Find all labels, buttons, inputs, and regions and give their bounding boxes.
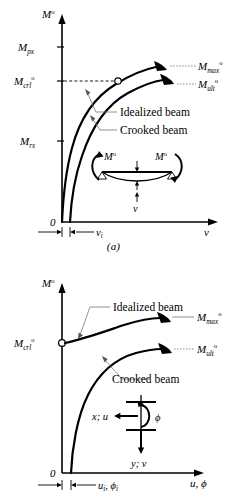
plot-a: Mo v 0 Mpx Mcrlo Mrx (0, 0, 227, 240)
curve-arrowhead-crooked-a (160, 74, 174, 85)
curve-idealized-beam-b (65, 318, 160, 343)
panel-caption-a: (a) (0, 240, 227, 252)
y-tick-mpx-a: Mpx (17, 41, 64, 56)
callout-crooked-text-a: Crooked beam (120, 124, 187, 136)
y-axis-b (58, 283, 65, 473)
callout-arrow-crooked-a (90, 115, 95, 121)
callout-crooked-text-b: Crooked beam (112, 373, 179, 385)
chart-panel-b: Mo u, ϕ 0 Mcrlo Mmaxo (0, 255, 227, 503)
curve-label-mult-text-a: Multo (197, 77, 219, 92)
inset-axes-diagram-b: x; u ϕ y; v (91, 395, 161, 469)
inset-support-left-a (98, 172, 107, 179)
curve-label-mult-text-b: Multo (196, 342, 218, 357)
curve-label-mult-b: Multo (174, 342, 218, 357)
curve-label-mmax-text-b: Mmaxo (196, 310, 222, 325)
y-tick-label-mrx: Mrx (19, 135, 36, 150)
curve-crooked-beam-a (70, 80, 163, 222)
origin-label-a: 0 (50, 216, 56, 228)
curve-label-mmax-a: Mmaxo (170, 59, 223, 74)
curve-label-mmax-text-a: Mmaxo (197, 59, 223, 74)
inset-beam-diagram-a: Mo Mo v (92, 150, 182, 214)
x-axis-title-b: u, ϕ (190, 477, 207, 489)
x-axis-b (62, 469, 204, 476)
x-axis-arrowhead-a (208, 218, 218, 225)
y-tick-mcrl-b: Mcrlo (13, 336, 65, 351)
x-dimension-label-vi: vi (96, 227, 103, 240)
y-axis-arrowhead-a (58, 14, 65, 24)
inset-axis-y-label-b: y; v (130, 458, 147, 469)
inset-moment-arrow-left-a (92, 154, 99, 180)
curve-arrowhead-crooked-b (158, 343, 172, 354)
curve-arrowhead-idealized-b (157, 312, 171, 323)
callout-idealized-text-b: Idealized beam (113, 301, 183, 313)
y-tick-label-mpx: Mpx (17, 41, 35, 56)
x-axis-title-a: v (204, 226, 209, 238)
inset-moment-arrow-right-a (175, 154, 182, 180)
figure-container: Mo v 0 Mpx Mcrlo Mrx (0, 0, 227, 503)
callout-arrow-idealized-a (85, 89, 90, 95)
y-tick-mcrl-a: Mcrlo (13, 74, 118, 89)
y-tick-label-mcrl: Mcrlo (13, 74, 35, 89)
x-dimension-vi-a: vi (38, 227, 103, 240)
callout-idealized-beam-a: Idealized beam (85, 89, 190, 118)
inset-rotation-arc-b (141, 405, 149, 427)
y-axis-title-b: Mo (41, 277, 55, 289)
y-axis-title-a: Mo (41, 8, 55, 20)
y-tick-mrx-a: Mrx (19, 135, 64, 150)
plot-b: Mo u, ϕ 0 Mcrlo Mmaxo (0, 255, 227, 503)
curve-label-mult-a: Multo (177, 77, 219, 92)
y-tick-label-mcrl-b: Mcrlo (13, 336, 35, 351)
curve-arrowhead-idealized-a (154, 61, 167, 71)
critical-point-marker-a (115, 78, 121, 84)
chart-panel-a: Mo v 0 Mpx Mcrlo Mrx (0, 0, 227, 260)
x-axis-arrowhead-b (194, 469, 204, 476)
callout-crooked-beam-b: Crooked beam (102, 356, 179, 385)
curve-idealized-beam-a (62, 67, 156, 222)
x-dimension-ui-b: ui, ϕi (38, 480, 118, 493)
inset-rotation-label-b: ϕ (155, 412, 161, 423)
inset-deflection-label-a: v (133, 203, 138, 214)
x-dimension-label-ui: ui, ϕi (98, 480, 118, 493)
x-axis-a (62, 218, 218, 225)
callout-crooked-beam-a: Crooked beam (90, 115, 187, 136)
inset-moment-label-left-a: Mo (103, 150, 117, 162)
callout-idealized-text-a: Idealized beam (120, 106, 190, 118)
inset-axis-x-label-b: x; u (91, 411, 108, 422)
inset-moment-label-right-a: Mo (154, 150, 168, 162)
origin-label-b: 0 (50, 467, 56, 479)
y-axis-arrowhead-b (58, 283, 65, 293)
